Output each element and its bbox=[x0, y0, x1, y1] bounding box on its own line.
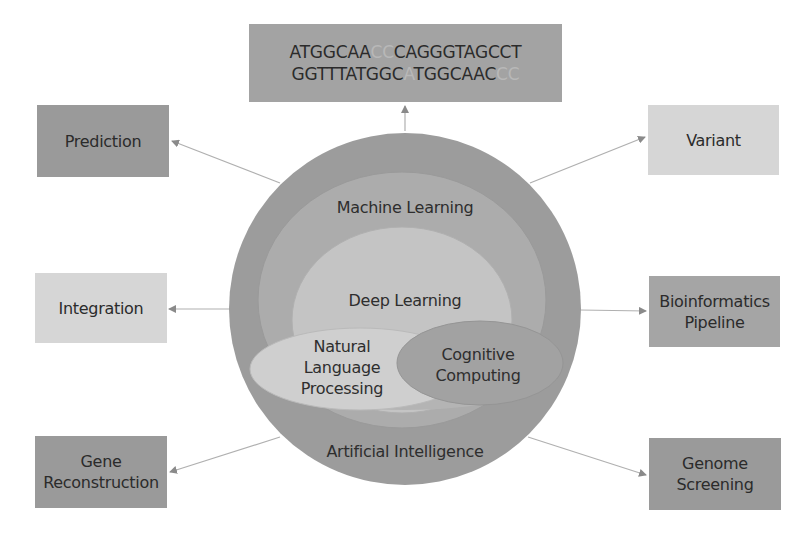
nlp-label: Natural Language Processing bbox=[282, 336, 402, 399]
arrow-to-gene-reconstruction bbox=[170, 437, 280, 472]
dna-sequence-box: ATGGCAACCCAGGGTAGCCT GGTTTATGGCATGGCAACC… bbox=[249, 24, 562, 102]
gene-reconstruction-box: Gene Reconstruction bbox=[35, 436, 167, 508]
dna-line-2: GGTTTATGGCATGGCAACCC bbox=[292, 63, 520, 85]
dna-line-1: ATGGCAACCCAGGGTAGCCT bbox=[290, 41, 522, 63]
arrow-to-prediction bbox=[172, 141, 280, 183]
variant-box: Variant bbox=[648, 105, 779, 175]
arrow-to-bioinformatics bbox=[580, 310, 646, 311]
deep-learning-label: Deep Learning bbox=[300, 290, 510, 311]
cognitive-computing-label: Cognitive Computing bbox=[418, 344, 538, 386]
integration-box: Integration bbox=[35, 273, 167, 343]
machine-learning-label: Machine Learning bbox=[300, 197, 510, 218]
artificial-intelligence-label: Artificial Intelligence bbox=[290, 441, 520, 462]
arrow-to-variant bbox=[530, 137, 645, 183]
arrow-to-genome-screening bbox=[528, 437, 646, 475]
bioinformatics-pipeline-box: Bioinformatics Pipeline bbox=[649, 276, 780, 347]
prediction-box: Prediction bbox=[37, 105, 169, 177]
genome-screening-box: Genome Screening bbox=[649, 438, 781, 510]
